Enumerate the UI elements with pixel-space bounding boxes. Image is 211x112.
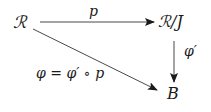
label-p: p (89, 4, 98, 18)
label-phi-composite: φ = φ′ ∘ p (36, 66, 104, 80)
label-phi-prime: φ′ (184, 44, 197, 58)
node-source: ℛ (13, 14, 27, 31)
node-target: B (167, 86, 179, 102)
node-quotient: ℛ/J (158, 14, 183, 30)
